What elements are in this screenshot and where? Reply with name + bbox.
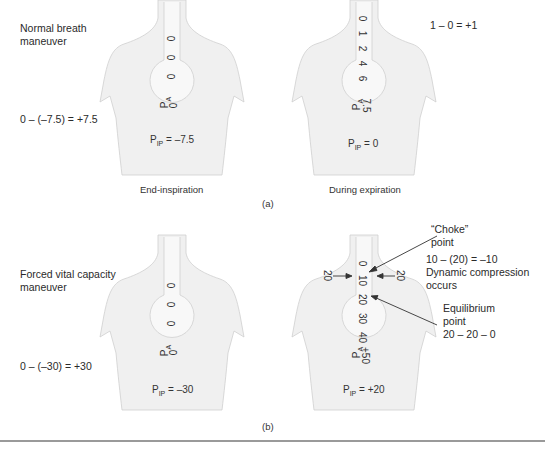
choke-point-equation: 10 – (20) = –10 Dynamic compression occu… — [426, 253, 529, 292]
choke-equation-line1: 10 – (20) = –10 — [426, 253, 529, 266]
airway-value: 0 — [357, 16, 368, 22]
choke-equation-line2: Dynamic compression — [426, 266, 529, 279]
panel-a-label: (a) — [262, 198, 274, 209]
intrapleural-pressure: PIP = –30 — [152, 384, 193, 397]
airway-value: 0 — [357, 261, 368, 267]
torso-a-end-inspiration — [100, 0, 244, 175]
alveolar-pressure-value: 7.5 — [361, 99, 372, 113]
airway-value: 0 — [165, 36, 176, 42]
choke-point-label-line2: point — [431, 236, 468, 249]
airway-value: 0 — [165, 74, 176, 80]
side-pressure-left: 20 — [322, 270, 333, 281]
airway-value: 0 — [165, 55, 176, 61]
airway-value: 40 — [357, 332, 368, 343]
panel-b-left-equation: 0 – (–30) = +30 — [20, 360, 92, 373]
airway-value: 4 — [357, 61, 368, 67]
panel-a-left-equation: 0 – (–7.5) = +7.5 — [20, 113, 98, 126]
airway-value: 2 — [357, 46, 368, 52]
caption-during-expiration: During expiration — [329, 184, 401, 195]
equilibrium-line3: 20 – 20 – 0 — [443, 328, 496, 341]
airway-value: 0 — [165, 302, 176, 308]
choke-point-label-line1: “Choke” — [431, 223, 468, 236]
panel-a-title-line1: Normal breath — [20, 22, 87, 35]
airway-value: 6 — [357, 76, 368, 82]
panel-a-right-equation: 1 – 0 = +1 — [430, 19, 477, 32]
divider-rule — [0, 440, 545, 442]
intrapleural-pressure: PIP = –7.5 — [150, 134, 194, 147]
alveolar-pressure-value: +50 — [360, 347, 371, 364]
panel-a-title-line2: maneuver — [20, 35, 87, 48]
airway-value: 0 — [165, 321, 176, 327]
airway-value: 10 — [357, 275, 368, 286]
airway-value: 20 — [357, 294, 368, 305]
choke-equation-line3: occurs — [426, 279, 529, 292]
side-pressure-right: 20 — [395, 270, 406, 281]
panel-b-label: (b) — [262, 421, 274, 432]
alveolar-pressure-value: 0 — [167, 350, 178, 356]
choke-point-label: “Choke” point — [431, 223, 468, 249]
alveolar-pressure-value: 0 — [167, 103, 178, 109]
equilibrium-point-label: Equilibrium point 20 – 20 – 0 — [443, 302, 496, 341]
panel-a-title: Normal breath maneuver — [20, 22, 87, 48]
airway-value: 30 — [357, 313, 368, 324]
panel-b-title-line1: Forced vital capacity — [20, 268, 116, 281]
equilibrium-line2: point — [443, 315, 496, 328]
caption-end-inspiration: End-inspiration — [140, 184, 203, 195]
panel-b-title-line2: maneuver — [20, 281, 116, 294]
equilibrium-line1: Equilibrium — [443, 302, 496, 315]
intrapleural-pressure: PIP = 0 — [348, 138, 378, 151]
intrapleural-pressure: PIP = +20 — [343, 384, 385, 397]
airway-value: 0 — [165, 283, 176, 289]
airway-value: 1 — [357, 31, 368, 37]
panel-b-title: Forced vital capacity maneuver — [20, 268, 116, 294]
